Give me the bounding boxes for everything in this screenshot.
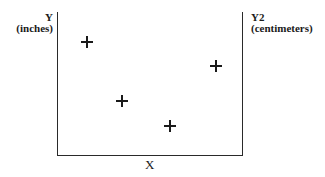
x-axis-line (57, 155, 243, 156)
plus-marker-icon (116, 95, 128, 107)
y2-axis-unit: (centimeters) (251, 23, 313, 34)
y2-axis-line (242, 12, 243, 156)
y2-axis-label: Y2 (centimeters) (251, 12, 313, 34)
plus-marker-icon (81, 36, 93, 48)
y-axis-unit: (inches) (16, 23, 53, 34)
y-axis-label: Y (inches) (16, 12, 53, 34)
plus-marker-icon (164, 120, 176, 132)
y-axis-line (57, 12, 58, 156)
plus-marker-icon (210, 60, 222, 72)
x-axis-label: X (145, 159, 154, 170)
